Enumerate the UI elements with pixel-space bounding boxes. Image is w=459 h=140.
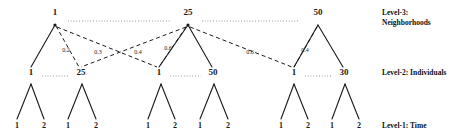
level1-leaf-label-7: 1 (198, 121, 202, 130)
leaf-edge-1b (31, 84, 44, 119)
level1-leaf-label-4: 2 (94, 121, 98, 130)
node-dot-1 (53, 23, 56, 26)
level2-node-label-3: 1 (157, 67, 162, 77)
leaf-edge-6a (332, 84, 345, 119)
leaf-edge-3b (161, 84, 175, 119)
edge-weight-label-6: 0.4 (301, 47, 309, 53)
level2-node-label-1: 1 (29, 67, 34, 77)
leaf-edge-1a (17, 84, 31, 119)
level1-leaf-label-6: 2 (173, 121, 177, 130)
solid-edge-c2 (318, 25, 343, 67)
level3-node-label-1: 1 (53, 7, 58, 17)
leaf-edge-2b (82, 84, 96, 119)
level2-caption: Level-2: Individuals (382, 68, 446, 78)
level3-caption-line1: Level-3: (382, 8, 431, 18)
level2-node-label-2: 25 (77, 67, 86, 77)
level3-node-label-2: 25 (184, 7, 193, 17)
edge-weight-label-5: 0.6 (246, 49, 254, 55)
level1-leaf-label-12: 2 (357, 121, 361, 130)
level3-node-dots (53, 23, 189, 26)
level1-leaf-label-5: 1 (146, 121, 150, 130)
level1-leaf-label-3: 1 (66, 121, 70, 130)
level1-caption: Level-1: Time (382, 121, 427, 131)
leaf-edge-6b (345, 84, 359, 119)
leaf-edge-5a (281, 84, 294, 119)
dashed-edge-0-4-left (57, 27, 157, 67)
leaf-edge-3a (148, 84, 161, 119)
leaf-edge-2a (68, 84, 82, 119)
level1-leaf-label-9: 1 (279, 121, 283, 130)
level1-leaf-label-11: 1 (330, 121, 334, 130)
level3-to-level2-solid-edges (31, 25, 343, 67)
dashed-edge-0-6-right (190, 27, 292, 67)
leaf-edge-4b (214, 84, 228, 119)
leaf-edge-4a (200, 84, 214, 119)
level1-leaf-label-8: 2 (226, 121, 230, 130)
level1-leaf-label-1: 1 (15, 121, 19, 130)
level3-node-label-3: 50 (314, 7, 323, 17)
level2-node-label-4: 50 (209, 67, 218, 77)
edge-weight-label-4: 0.6 (164, 45, 172, 51)
level3-caption-line2: Neighborhoods (382, 18, 431, 28)
hierarchical-model-diagram: 1 25 50 1 25 1 50 1 30 1 2 1 2 1 2 1 2 1… (0, 0, 459, 140)
level2-to-level1-solid-edges (17, 84, 359, 119)
weighted-dashed-edges (56, 26, 317, 67)
leaf-edge-5b (294, 84, 308, 119)
level3-caption: Level-3: Neighborhoods (382, 8, 431, 27)
level1-leaf-label-10: 2 (306, 121, 310, 130)
level2-node-label-6: 30 (340, 67, 349, 77)
node-dot-25 (186, 23, 189, 26)
solid-edge-a1 (31, 25, 55, 67)
level1-leaf-label-2: 2 (42, 121, 46, 130)
edge-weight-label-1: 0.2 (62, 47, 70, 53)
edge-weight-label-3: 0.4 (134, 49, 142, 55)
edge-weight-label-2: 0.3 (94, 49, 102, 55)
level2-node-label-5: 1 (292, 67, 297, 77)
